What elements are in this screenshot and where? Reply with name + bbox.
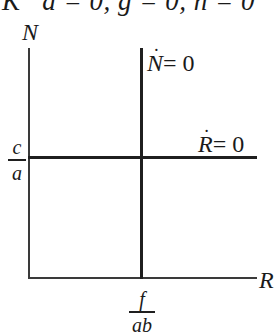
fraction-bar [8,159,26,161]
c-numerator: c [13,137,22,157]
n-dot-equation: ˙N= 0 [147,51,195,75]
n-dot-nullcline [140,48,143,279]
dot-accent-icon: ˙ [203,127,210,147]
y-axis-label: N [22,20,38,44]
r-dot-rhs: = 0 [213,131,245,157]
dot-accent-icon: ˙ [153,46,160,66]
f-numerator: f [139,289,145,309]
ab-denominator: ab [132,315,152,335]
x-axis-label: R [259,268,274,292]
a-denominator: a [12,163,22,183]
cropped-title: K a = 0, g = 0, h = 0 [2,0,255,17]
c-over-a-label: c a [8,137,26,183]
y-axis [28,48,30,279]
r-dot-equation: ˙R= 0 [198,132,244,156]
n-dot-rhs: = 0 [163,50,195,76]
f-over-ab-label: f ab [129,289,155,335]
fraction-bar [129,311,155,313]
